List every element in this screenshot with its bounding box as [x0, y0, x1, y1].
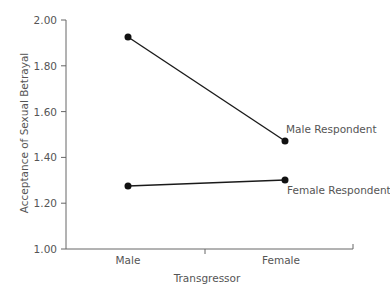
- x-tick-label-male: Male: [116, 254, 141, 266]
- y-ticks: [61, 20, 66, 249]
- series-female-respondent: [125, 177, 289, 190]
- data-point: [125, 183, 132, 190]
- y-tick-label: 1.80: [34, 60, 57, 72]
- data-point: [125, 34, 132, 41]
- x-axis-title: Transgressor: [173, 272, 241, 284]
- series-male-respondent: [125, 34, 289, 145]
- y-tick-labels: 2.00 1.80 1.60 1.40 1.20 1.00: [34, 14, 57, 255]
- series-label-male: Male Respondent: [286, 123, 377, 135]
- y-axis-title: Acceptance of Sexual Betrayal: [18, 53, 30, 214]
- x-tick-label-female: Female: [262, 254, 300, 266]
- y-tick-label: 1.00: [34, 243, 57, 255]
- y-tick-label: 1.60: [34, 106, 57, 118]
- data-point: [282, 177, 289, 184]
- data-point: [282, 138, 289, 145]
- y-tick-label: 1.40: [34, 151, 57, 163]
- y-tick-label: 2.00: [34, 14, 57, 26]
- line-chart: 2.00 1.80 1.60 1.40 1.20 1.00 Male Femal…: [0, 0, 390, 297]
- y-tick-label: 1.20: [34, 197, 57, 209]
- series-label-female: Female Respondent: [287, 184, 390, 196]
